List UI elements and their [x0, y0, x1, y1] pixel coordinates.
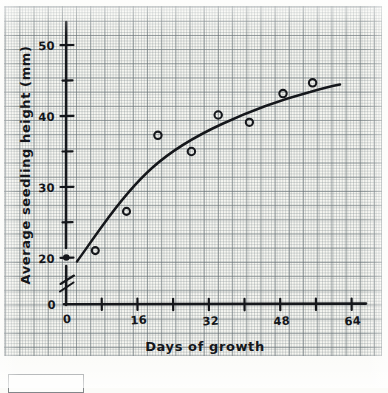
- x-tick-label-16: 16: [130, 312, 148, 327]
- x-tick-label-48: 48: [273, 313, 291, 328]
- y-tick-label-50: 50: [38, 39, 55, 54]
- data-point: [279, 90, 286, 97]
- y-tick-label-40: 40: [38, 110, 55, 125]
- data-point: [123, 208, 130, 215]
- x-tick-label-32: 32: [202, 313, 220, 328]
- x-tick-label-64: 64: [344, 313, 362, 328]
- data-point: [188, 148, 195, 155]
- bottom-left-label-box: [8, 374, 84, 393]
- data-point: [63, 254, 70, 261]
- data-point: [246, 119, 253, 126]
- x-tick-label-0: 0: [63, 312, 72, 327]
- y-tick-label-30: 30: [38, 181, 55, 196]
- y-tick-label-20: 20: [38, 252, 55, 267]
- best-fit-curve: [77, 85, 340, 262]
- data-point: [309, 79, 316, 86]
- x-axis-title: Days of growth: [145, 339, 265, 354]
- data-point: [154, 132, 161, 139]
- y-tick-label-0: 0: [47, 298, 56, 312]
- data-point: [92, 247, 99, 254]
- y-axis-title: Average seedling height (mm): [18, 46, 33, 285]
- data-points: [63, 79, 316, 261]
- x-axis-line: [64, 304, 366, 305]
- data-point: [215, 111, 222, 118]
